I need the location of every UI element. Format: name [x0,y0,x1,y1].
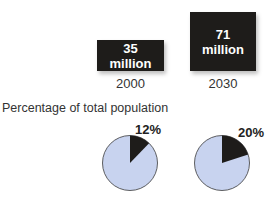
bar-2000-value: 35 [123,41,137,56]
bar-2030-unit: million [202,42,244,57]
bar-2000: 35 million [97,40,164,71]
year-label-2030: 2030 [190,76,256,91]
pie-2030 [194,135,250,191]
pie-2000 [102,135,158,191]
bar-2000-unit: million [110,56,152,71]
year-label-2000: 2000 [97,76,164,91]
bar-2030: 71 million [190,12,256,71]
chart-subtitle: Percentage of total population [2,101,168,115]
bar-2030-value: 71 [216,27,230,42]
